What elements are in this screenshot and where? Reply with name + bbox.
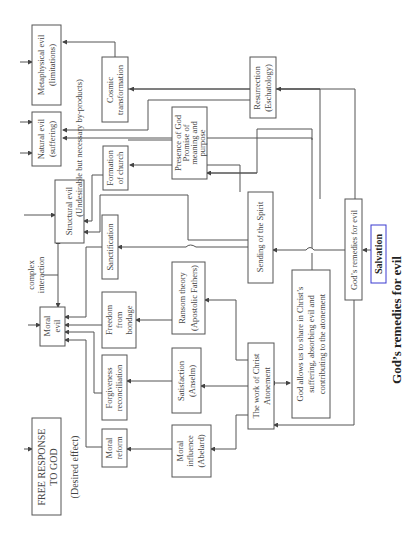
node-moral-influence: Moral influence (Abelard) bbox=[172, 425, 211, 477]
formation-line1: Formation bbox=[105, 150, 115, 186]
node-presence-of-god: Presence of God Promise of meaning and p… bbox=[172, 107, 207, 179]
moral-reform-line2: reform bbox=[114, 436, 124, 460]
node-salvation: Salvation bbox=[371, 225, 386, 283]
node-ransom-theory: Ransom theory (Apostolic Fathers) bbox=[172, 262, 205, 334]
gods-remedies-label: God’s remedies for evil bbox=[349, 209, 359, 290]
free-response-line2: TO GOD bbox=[48, 448, 59, 485]
undesirable-note: (Undesirable but necessary by-products) bbox=[74, 79, 84, 217]
desired-effect-label: (Desired effect) bbox=[69, 436, 81, 499]
satisfaction-line2: (Anselm) bbox=[187, 365, 197, 397]
forgiveness-line1: Forgiveness bbox=[104, 368, 114, 409]
forgiveness-line2: reconciliation bbox=[114, 364, 124, 411]
resurrection-line1: Resurrection bbox=[252, 66, 262, 110]
sanctification-label: Sanctification bbox=[105, 223, 115, 271]
node-formation-church: Formation of church bbox=[103, 146, 128, 190]
structural-evil-label: Structural evil bbox=[64, 186, 74, 235]
formation-line2: of church bbox=[115, 151, 125, 184]
moral-evil-line2: evil bbox=[52, 319, 62, 332]
node-god-allows: God allows us to share in Christ’s suffe… bbox=[292, 270, 330, 418]
work-of-christ-line1: The work of Christ bbox=[251, 353, 261, 419]
metaphysical-evil-line1: Metaphysical evil bbox=[36, 34, 46, 95]
diagram-canvas: Metaphysical evil (limitations) Natural … bbox=[0, 0, 408, 556]
node-satisfaction: Satisfaction (Anselm) bbox=[172, 348, 201, 413]
ransom-line1: Ransom theory bbox=[177, 271, 187, 323]
node-freedom-bondage: Freedom from bondage bbox=[102, 292, 136, 348]
god-allows-line1: God allows us to share in Christ’s bbox=[295, 287, 305, 402]
complex-interaction-line1: complex bbox=[26, 260, 36, 290]
freedom-line2: from bbox=[114, 311, 124, 328]
sending-spirit-label: Sending of the Spirit bbox=[255, 201, 265, 272]
cosmic-line1: Cosmic bbox=[105, 77, 115, 103]
node-cosmic-transformation: Cosmic transformation bbox=[102, 57, 128, 122]
moral-evil-line1: Moral bbox=[42, 315, 52, 336]
metaphysical-evil-line2: (limitations) bbox=[47, 44, 57, 86]
node-forgiveness: Forgiveness reconciliation bbox=[102, 355, 127, 420]
cosmic-line2: transformation bbox=[115, 64, 125, 115]
node-free-response: FREE RESPONSE TO GOD bbox=[32, 418, 61, 515]
node-metaphysical-evil: Metaphysical evil (limitations) bbox=[32, 25, 61, 105]
resurrection-line2: (Eschatology) bbox=[263, 64, 273, 112]
natural-evil-line1: Natural evil bbox=[36, 118, 46, 159]
node-sending-spirit: Sending of the Spirit bbox=[248, 192, 273, 283]
salvation-label: Salvation bbox=[373, 234, 384, 274]
node-work-of-christ: The work of Christ Atonement bbox=[248, 343, 274, 429]
node-moral-reform: Moral reform bbox=[102, 429, 127, 467]
node-sanctification: Sanctification bbox=[102, 215, 118, 279]
work-of-christ-line2: Atonement bbox=[262, 366, 272, 404]
moral-influence-line1: Moral bbox=[175, 440, 185, 461]
node-gods-remedies: God’s remedies for evil bbox=[345, 199, 362, 300]
ransom-line2: (Apostolic Fathers) bbox=[189, 265, 199, 331]
complex-interaction-line2: interaction bbox=[36, 256, 46, 293]
freedom-line3: bondage bbox=[124, 305, 134, 334]
node-resurrection: Resurrection (Eschatology) bbox=[250, 57, 276, 118]
moral-influence-line3: (Abelard) bbox=[196, 434, 206, 467]
diagram-title: God’s remedies for evil bbox=[389, 256, 404, 384]
satisfaction-line1: Satisfaction bbox=[176, 360, 186, 401]
freedom-line1: Freedom bbox=[104, 305, 114, 336]
moral-influence-line2: influence bbox=[185, 435, 195, 467]
god-allows-line2: suffering, absorbing evil and bbox=[306, 294, 316, 392]
free-response-line1: FREE RESPONSE bbox=[36, 429, 47, 506]
natural-evil-line2: (suffering) bbox=[47, 121, 57, 157]
moral-reform-line1: Moral bbox=[104, 437, 114, 458]
presence-line4: purpose bbox=[197, 129, 207, 156]
node-moral-evil: Moral evil bbox=[40, 307, 65, 346]
node-natural-evil: Natural evil (suffering) bbox=[32, 112, 61, 166]
god-allows-line3: contributing to the atonement bbox=[317, 293, 327, 394]
